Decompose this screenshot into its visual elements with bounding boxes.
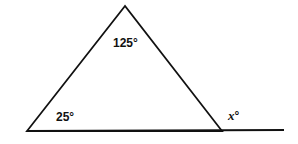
triangle-diagram — [0, 0, 298, 144]
apex-angle-label: 125° — [113, 37, 138, 49]
bottom-left-angle-label: 25° — [56, 111, 74, 123]
exterior-angle-label: x° — [228, 109, 239, 122]
extended-baseline — [27, 130, 284, 131]
degree-symbol: ° — [235, 109, 240, 123]
